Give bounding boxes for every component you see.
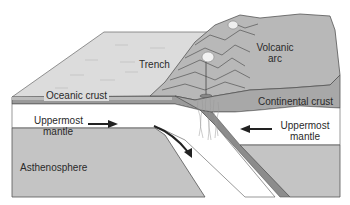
label-uppermost-mantle-left-line2: mantle bbox=[34, 126, 82, 137]
label-volcanic-arc: Volcanic arc bbox=[255, 42, 295, 64]
label-trench: Trench bbox=[139, 59, 170, 70]
label-volcanic-arc-line1: Volcanic bbox=[255, 42, 295, 53]
label-uppermost-mantle-right-line1: Uppermost bbox=[280, 120, 330, 131]
label-oceanic-crust: Oceanic crust bbox=[44, 90, 109, 101]
label-uppermost-mantle-left-line1: Uppermost bbox=[34, 115, 82, 126]
label-uppermost-mantle-right: Uppermost mantle bbox=[280, 120, 330, 142]
label-asthenosphere: Asthenosphere bbox=[20, 162, 87, 173]
label-uppermost-mantle-left: Uppermost mantle bbox=[34, 115, 82, 137]
label-continental-crust: Continental crust bbox=[258, 96, 333, 107]
label-volcanic-arc-line2: arc bbox=[255, 53, 295, 64]
label-uppermost-mantle-right-line2: mantle bbox=[280, 131, 330, 142]
